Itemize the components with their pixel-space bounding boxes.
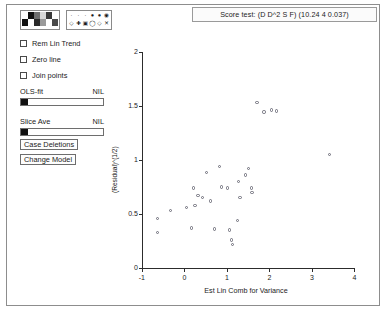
slider-group-0: OLS-fitNIL: [20, 87, 104, 106]
data-point[interactable]: [228, 228, 231, 231]
slider-thumb[interactable]: [21, 99, 28, 105]
x-tick-label: 0: [174, 274, 194, 281]
y-axis-label: (Residual)^(1/2): [111, 146, 118, 193]
symbol-swatch-9[interactable]: ◯: [89, 20, 96, 28]
y-tick: [139, 214, 143, 215]
data-point[interactable]: [169, 209, 172, 212]
x-tick-label: -1: [132, 274, 152, 281]
data-point[interactable]: [275, 109, 278, 112]
data-point[interactable]: [209, 199, 212, 202]
symbol-swatch-2[interactable]: ·: [82, 12, 89, 20]
y-tick: [139, 52, 143, 53]
button-change-model[interactable]: Change Model: [20, 154, 76, 165]
slider-label: Slice Ave: [20, 117, 50, 126]
plot-area[interactable]: 00.511.52-101234: [127, 41, 365, 277]
slider-track[interactable]: [20, 128, 104, 136]
color-palette[interactable]: [20, 10, 60, 30]
symbol-swatch-10[interactable]: ◇: [96, 20, 103, 28]
symbol-swatch-6[interactable]: ◇: [68, 20, 75, 28]
data-point[interactable]: [218, 165, 221, 168]
control-panel: ···●●◉◇✚▣◯◇✕ Rem Lin TrendZero lineJoin …: [11, 7, 111, 155]
data-point[interactable]: [196, 194, 199, 197]
x-tick: [227, 268, 228, 272]
slider-label: OLS-fit: [20, 87, 43, 96]
button-label: Change Model: [24, 155, 72, 164]
x-tick: [142, 268, 143, 272]
data-point[interactable]: [238, 196, 241, 199]
y-tick-label: 1.5: [116, 102, 138, 109]
checkbox-label: Zero line: [32, 55, 61, 64]
x-axis-line: [142, 268, 355, 269]
data-point[interactable]: [190, 226, 193, 229]
scatter-plot: 00.511.52-101234 (Residual)^(1/2) Est Li…: [103, 27, 375, 301]
data-point[interactable]: [156, 231, 159, 234]
data-point[interactable]: [230, 238, 233, 241]
palette-row: ···●●◉◇✚▣◯◇✕: [20, 10, 112, 30]
slider-track[interactable]: [20, 98, 104, 106]
data-point[interactable]: [247, 167, 250, 170]
data-point[interactable]: [250, 186, 253, 189]
symbol-swatch-0[interactable]: ·: [68, 12, 75, 20]
data-point[interactable]: [156, 217, 159, 220]
symbol-swatch-3[interactable]: ●: [89, 12, 96, 20]
button-case-deletions[interactable]: Case Deletions: [20, 139, 78, 150]
symbol-swatch-5[interactable]: ◉: [103, 12, 110, 20]
data-point[interactable]: [328, 153, 331, 156]
data-point[interactable]: [213, 227, 216, 230]
data-point[interactable]: [201, 196, 204, 199]
data-point[interactable]: [255, 101, 258, 104]
color-swatch-5[interactable]: [52, 12, 58, 19]
checkbox-row-0[interactable]: Rem Lin Trend: [20, 39, 80, 48]
y-tick-label: 0.5: [116, 210, 138, 217]
slider-header: Slice AveNIL: [20, 117, 104, 126]
x-tick: [269, 268, 270, 272]
x-axis-label: Est Lin Comb for Variance: [127, 286, 365, 295]
checkbox-icon[interactable]: [20, 56, 27, 63]
x-tick: [184, 268, 185, 272]
checkbox-row-1[interactable]: Zero line: [20, 55, 61, 64]
checkbox-row-2[interactable]: Join points: [20, 71, 67, 80]
x-tick-label: 2: [259, 274, 279, 281]
data-point[interactable]: [262, 110, 265, 113]
data-point[interactable]: [250, 191, 253, 194]
data-point[interactable]: [244, 173, 247, 176]
symbol-swatch-7[interactable]: ✚: [75, 20, 82, 28]
plot-window: Score test: (D D^2 S F) (10.24 4 0.037) …: [6, 4, 380, 306]
slider-group-1: Slice AveNIL: [20, 117, 104, 136]
data-point[interactable]: [231, 243, 234, 246]
checkbox-label: Join points: [32, 71, 67, 80]
data-point[interactable]: [237, 180, 240, 183]
data-point[interactable]: [220, 185, 223, 188]
y-tick: [139, 106, 143, 107]
data-point[interactable]: [226, 186, 229, 189]
checkbox-icon[interactable]: [20, 40, 27, 47]
color-swatch-11[interactable]: [52, 19, 58, 26]
slider-thumb[interactable]: [21, 129, 28, 135]
x-tick-label: 1: [217, 274, 237, 281]
data-point[interactable]: [193, 204, 196, 207]
x-tick-label: 4: [344, 274, 364, 281]
x-tick: [312, 268, 313, 272]
symbol-swatch-4[interactable]: ●: [96, 12, 103, 20]
y-tick-label: 0: [116, 264, 138, 271]
x-tick: [354, 268, 355, 272]
data-point[interactable]: [236, 219, 239, 222]
checkbox-icon[interactable]: [20, 72, 27, 79]
data-point[interactable]: [270, 108, 273, 111]
checkbox-label: Rem Lin Trend: [32, 39, 80, 48]
y-tick-label: 2: [116, 48, 138, 55]
y-tick-label: 1: [116, 156, 138, 163]
slider-header: OLS-fitNIL: [20, 87, 104, 96]
data-point[interactable]: [205, 171, 208, 174]
score-test-text: Score test: (D D^2 S F) (10.24 4 0.037): [220, 10, 349, 19]
symbol-swatch-8[interactable]: ▣: [82, 20, 89, 28]
score-test-title-bar: Score test: (D D^2 S F) (10.24 4 0.037): [192, 7, 377, 22]
button-label: Case Deletions: [24, 140, 74, 149]
x-tick-label: 3: [302, 274, 322, 281]
y-tick: [139, 160, 143, 161]
data-point[interactable]: [192, 186, 195, 189]
data-point[interactable]: [185, 206, 188, 209]
symbol-swatch-1[interactable]: ·: [75, 12, 82, 20]
